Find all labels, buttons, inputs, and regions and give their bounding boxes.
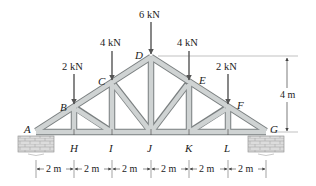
node-label-e: E xyxy=(199,75,206,86)
node-label-c: C xyxy=(98,76,105,87)
node-label-d: D xyxy=(135,50,143,61)
height-dimension-label: 4 m xyxy=(280,90,295,100)
span-label-6: 2 m xyxy=(238,164,253,174)
load-label-b: 2 kN xyxy=(62,62,83,73)
load-label-c: 4 kN xyxy=(100,38,121,49)
truss-diagram: 2 kN 4 kN 6 kN 4 kN 2 kN A B C D E F G H… xyxy=(0,0,316,186)
truss-drawing xyxy=(0,0,316,186)
right-support xyxy=(248,136,284,156)
load-label-e: 4 kN xyxy=(177,38,198,49)
node-label-k: K xyxy=(185,143,192,154)
node-label-g: G xyxy=(270,124,278,135)
load-label-f: 2 kN xyxy=(216,62,237,73)
node-label-f: F xyxy=(237,100,244,111)
node-label-j: J xyxy=(147,143,152,154)
left-support xyxy=(18,136,54,156)
span-label-5: 2 m xyxy=(199,164,214,174)
node-label-h: H xyxy=(70,143,78,154)
span-label-1: 2 m xyxy=(46,164,61,174)
node-label-a: A xyxy=(24,124,31,135)
node-label-l: L xyxy=(224,143,230,154)
span-label-4: 2 m xyxy=(161,164,176,174)
load-label-d: 6 kN xyxy=(139,10,160,21)
span-label-2: 2 m xyxy=(84,164,99,174)
span-label-3: 2 m xyxy=(122,164,137,174)
node-label-i: I xyxy=(109,143,113,154)
node-label-b: B xyxy=(60,102,67,113)
